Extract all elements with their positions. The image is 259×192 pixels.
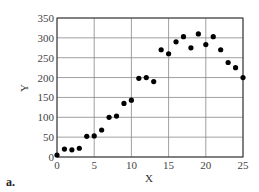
data-point	[181, 34, 186, 39]
x-axis-label: X	[145, 172, 153, 184]
data-point	[114, 113, 119, 118]
data-point	[226, 60, 231, 65]
x-tick-label: 25	[238, 159, 250, 171]
data-point	[211, 34, 216, 39]
scatter-chart: 050100150200250300350 0510152025 X Y a.	[0, 0, 259, 192]
data-point	[77, 146, 82, 151]
data-point	[218, 47, 223, 52]
data-point	[99, 127, 104, 132]
data-point	[203, 42, 208, 47]
data-point	[188, 45, 193, 50]
y-tick-label: 50	[43, 131, 55, 143]
y-tick-label: 300	[38, 32, 55, 44]
data-point	[92, 133, 97, 138]
x-tick-label: 15	[163, 159, 175, 171]
data-point	[84, 134, 89, 139]
data-point	[106, 115, 111, 120]
data-point	[54, 152, 59, 157]
y-tick-label: 350	[38, 12, 55, 24]
data-point	[159, 47, 164, 52]
x-tick-label: 20	[200, 159, 212, 171]
panel-label: a.	[6, 175, 15, 189]
y-tick-label: 200	[38, 72, 55, 84]
x-tick-label: 0	[54, 159, 60, 171]
data-point	[129, 98, 134, 103]
data-point	[151, 79, 156, 84]
x-axis-ticks: 0510152025	[54, 159, 249, 171]
data-points	[54, 31, 245, 157]
y-tick-label: 100	[38, 111, 55, 123]
y-tick-label: 150	[38, 91, 55, 103]
data-point	[136, 76, 141, 81]
data-point	[62, 146, 67, 151]
y-axis-ticks: 050100150200250300350	[38, 12, 55, 163]
x-tick-label: 5	[91, 159, 97, 171]
data-point	[144, 75, 149, 80]
data-point	[121, 101, 126, 106]
data-point	[173, 39, 178, 44]
y-tick-label: 250	[38, 52, 55, 64]
x-tick-label: 10	[126, 159, 138, 171]
data-point	[196, 31, 201, 36]
data-point	[240, 75, 245, 80]
y-axis-label: Y	[18, 84, 30, 92]
data-point	[233, 65, 238, 70]
data-point	[166, 51, 171, 56]
data-point	[69, 147, 74, 152]
